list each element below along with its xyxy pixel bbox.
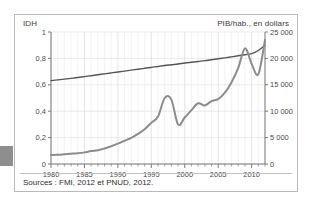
tick-label-left: 0,2 — [36, 133, 46, 142]
tick-label-x: 2010 — [243, 170, 260, 179]
tick-label-right: 25 000 — [270, 28, 293, 37]
chart-svg: 00,20,40,60,8105 00010 00015 00020 00025… — [15, 15, 299, 193]
chart-figure: IDH PIB/hab., en dollars 00,20,40,60,810… — [14, 14, 298, 192]
tick-label-right: 10 000 — [270, 107, 293, 116]
tick-label-left: 0,8 — [36, 54, 46, 63]
tick-label-x: 2000 — [176, 170, 193, 179]
tick-label-right: 20 000 — [270, 54, 293, 63]
tick-label-left: 0 — [42, 160, 46, 169]
tick-label-left: 1 — [42, 28, 46, 37]
tick-label-right: 15 000 — [270, 80, 293, 89]
page-edge-tab — [0, 146, 13, 166]
tick-label-left: 0,6 — [36, 80, 46, 89]
tick-label-right: 0 — [270, 160, 274, 169]
plot-area: 00,20,40,60,8105 00010 00015 00020 00025… — [15, 15, 299, 193]
tick-label-right: 5 000 — [270, 133, 289, 142]
sources-note: Sources : FMI, 2012 et PNUD, 2012. — [23, 178, 153, 187]
footer-divider — [20, 173, 292, 174]
tick-label-x: 2005 — [210, 170, 227, 179]
tick-label-left: 0,4 — [36, 107, 46, 116]
